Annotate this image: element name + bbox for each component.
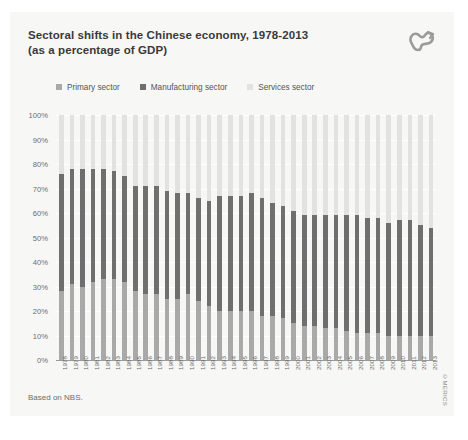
bar-column <box>236 115 247 360</box>
bar-segment-services <box>312 115 317 215</box>
bar-column <box>331 115 342 360</box>
bar-segment-manufacturing <box>302 215 307 325</box>
bar-segment-manufacturing <box>175 193 180 298</box>
bar-segment-manufacturing <box>112 171 117 279</box>
bar-segment-manufacturing <box>270 203 275 316</box>
x-tick-column: 1993 <box>214 362 225 398</box>
bar-segment-services <box>429 115 434 228</box>
plot-area <box>56 115 436 360</box>
bar-column <box>362 115 373 360</box>
y-tick-30pct: 30% <box>33 282 48 291</box>
bar-segment-services <box>281 115 286 206</box>
bar-segment-primary <box>112 279 117 360</box>
bar-segment-manufacturing <box>154 186 159 294</box>
y-tick-60pct: 60% <box>33 209 48 218</box>
x-tick-column: 2001 <box>299 362 310 398</box>
bar-segment-manufacturing <box>143 186 148 294</box>
bar-column <box>246 115 257 360</box>
bar-segment-manufacturing <box>344 215 349 330</box>
y-tick-10pct: 10% <box>33 331 48 340</box>
bar-column <box>278 115 289 360</box>
bar-column <box>56 115 67 360</box>
bar-segment-services <box>323 115 328 215</box>
x-tick-column: 1990 <box>183 362 194 398</box>
x-tick-column: 2004 <box>331 362 342 398</box>
x-tick-column: 1985 <box>130 362 141 398</box>
bar-segment-primary <box>207 306 212 360</box>
legend-item-services: Services sector <box>247 83 314 92</box>
bar-segment-services <box>175 115 180 193</box>
legend-swatch-services <box>247 84 253 90</box>
bar-column <box>257 115 268 360</box>
bar-column <box>98 115 109 360</box>
x-tick-column: 2008 <box>373 362 384 398</box>
x-tick-column: 2000 <box>288 362 299 398</box>
bar-segment-services <box>217 115 222 196</box>
bar-column <box>162 115 173 360</box>
bar-segment-manufacturing <box>217 196 222 311</box>
bar-segment-services <box>207 115 212 201</box>
bar-column <box>310 115 321 360</box>
bar-segment-primary <box>70 284 75 360</box>
bar-segment-services <box>154 115 159 186</box>
bar-segment-primary <box>154 294 159 360</box>
bar-segment-primary <box>281 318 286 360</box>
x-tick-column: 1984 <box>119 362 130 398</box>
bar-segment-manufacturing <box>429 228 434 336</box>
bar-segment-manufacturing <box>281 206 286 319</box>
bar-column <box>204 115 215 360</box>
bar-segment-primary <box>270 316 275 360</box>
bar-segment-primary <box>291 323 296 360</box>
bar-column <box>426 115 437 360</box>
bar-segment-manufacturing <box>165 191 170 299</box>
x-axis-tick-labels: 1978197919801981198219831984198519861987… <box>56 362 436 398</box>
bar-column <box>352 115 363 360</box>
bar-segment-services <box>196 115 201 198</box>
bar-segment-manufacturing <box>397 220 402 335</box>
bar-column <box>193 115 204 360</box>
bar-segment-services <box>408 115 413 220</box>
bar-segment-manufacturing <box>260 198 265 316</box>
bar-column <box>151 115 162 360</box>
x-tick-column: 1981 <box>88 362 99 398</box>
bar-segment-primary <box>165 299 170 360</box>
x-tick-column: 1994 <box>225 362 236 398</box>
bar-column <box>394 115 405 360</box>
chart-card: Sectoral shifts in the Chinese economy, … <box>10 12 454 416</box>
bar-segment-manufacturing <box>207 201 212 306</box>
bar-segment-services <box>376 115 381 218</box>
source-note: Based on NBS. <box>28 393 83 402</box>
bar-segment-manufacturing <box>91 169 96 282</box>
y-axis-tick-labels: 0%10%20%30%40%50%60%70%80%90%100% <box>10 108 52 367</box>
bar-column <box>119 115 130 360</box>
bar-segment-services <box>186 115 191 193</box>
bar-segment-manufacturing <box>228 196 233 311</box>
x-tick-column: 1999 <box>278 362 289 398</box>
chart-title: Sectoral shifts in the Chinese economy, … <box>28 28 368 58</box>
x-tick-column: 2013 <box>426 362 437 398</box>
x-tick-column: 1986 <box>141 362 152 398</box>
y-tick-50pct: 50% <box>33 233 48 242</box>
bar-segment-primary <box>249 311 254 360</box>
bar-segment-primary <box>80 287 85 361</box>
bar-segment-manufacturing <box>418 225 423 335</box>
bar-column <box>415 115 426 360</box>
legend-label-manufacturing: Manufacturing sector <box>151 83 227 92</box>
bar-segment-manufacturing <box>365 218 370 333</box>
bar-segment-primary <box>239 311 244 360</box>
bar-segment-primary <box>143 294 148 360</box>
bar-segment-services <box>249 115 254 193</box>
x-tick-column: 2007 <box>362 362 373 398</box>
x-tick-column: 2006 <box>352 362 363 398</box>
legend-item-manufacturing: Manufacturing sector <box>140 83 227 92</box>
bar-column <box>130 115 141 360</box>
bar-column <box>214 115 225 360</box>
bar-column <box>341 115 352 360</box>
bar-segment-manufacturing <box>386 223 391 336</box>
bar-segment-services <box>70 115 75 169</box>
bar-segment-manufacturing <box>323 215 328 328</box>
x-tick-column: 1992 <box>204 362 215 398</box>
bar-segment-manufacturing <box>80 169 85 287</box>
bar-column <box>267 115 278 360</box>
bar-segment-services <box>112 115 117 171</box>
